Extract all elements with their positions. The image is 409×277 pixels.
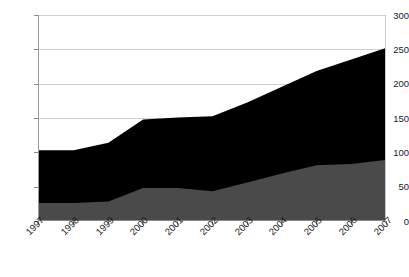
x-tick-label-1997: 1997: [24, 215, 46, 237]
series-layer: [39, 15, 386, 220]
area-chart: 300 250 200 150 100 50 0: [0, 0, 409, 277]
plot-area: [38, 15, 386, 221]
